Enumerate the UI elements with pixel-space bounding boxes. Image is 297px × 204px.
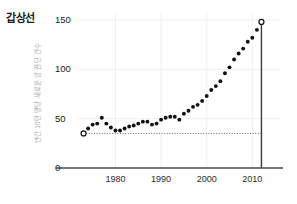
x-tick-label: 2010 (242, 174, 262, 184)
y-tick-label: 150 (55, 14, 71, 25)
data-point (150, 123, 154, 127)
data-point (255, 28, 259, 32)
data-point (214, 84, 218, 88)
data-point (86, 127, 90, 131)
data-point-open (259, 19, 264, 24)
data-point (104, 122, 108, 126)
data-point (228, 65, 232, 69)
data-point (187, 109, 191, 113)
y-tick-label: 50 (55, 113, 66, 124)
data-point (241, 47, 245, 51)
data-point (250, 36, 254, 40)
data-point (159, 118, 163, 122)
data-point (109, 126, 113, 130)
data-point (118, 129, 122, 133)
x-tick-label: 1990 (151, 174, 171, 184)
data-point (205, 94, 209, 98)
data-point (200, 99, 204, 103)
data-point (141, 120, 145, 124)
data-point (145, 120, 149, 124)
chart-figure: 갑상선 연간 10만 명당 새로운 암 진단 건수 050100150 1980… (0, 0, 297, 204)
data-point (132, 124, 136, 128)
data-point (218, 79, 222, 83)
data-point (177, 118, 181, 122)
data-point (246, 40, 250, 44)
data-point-open (81, 131, 86, 136)
data-point (95, 122, 99, 126)
data-point (182, 112, 186, 116)
data-point (91, 123, 95, 127)
data-point (155, 122, 159, 126)
data-point (173, 115, 177, 119)
x-tick-label: 2000 (197, 174, 217, 184)
data-point (136, 122, 140, 126)
data-point (100, 116, 104, 120)
data-point (196, 103, 200, 107)
data-point (237, 52, 241, 56)
data-point (168, 115, 172, 119)
gridlines (77, 12, 280, 168)
y-tick-label: 100 (55, 63, 71, 74)
data-point (209, 88, 213, 92)
data-point (164, 116, 168, 120)
data-point (191, 105, 195, 109)
y-tick-label: 0 (55, 162, 60, 173)
data-point (114, 129, 118, 133)
x-tick-label: 1980 (105, 174, 125, 184)
data-point (223, 71, 227, 75)
data-point (232, 58, 236, 62)
data-point (127, 125, 131, 129)
data-point (123, 127, 127, 131)
